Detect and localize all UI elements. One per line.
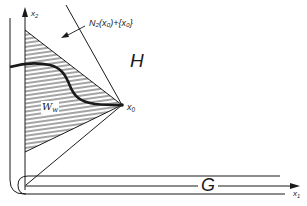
region-ww-label: Ww — [41, 101, 59, 114]
x1-axis-label: x1 — [293, 189, 300, 199]
diagram-canvas: x2 N₂(x₀)+{x₀} H x0 Ww G x1 — [0, 0, 307, 206]
x2-axis-label: x2 — [31, 9, 38, 19]
x0-point — [120, 103, 124, 107]
normal-cone-label: N₂(x₀)+{x₀} — [89, 18, 133, 28]
region-h-label: H — [130, 50, 144, 72]
x0-label: x0 — [127, 102, 135, 113]
region-g-label: G — [201, 175, 215, 196]
x1-axis — [25, 183, 300, 189]
